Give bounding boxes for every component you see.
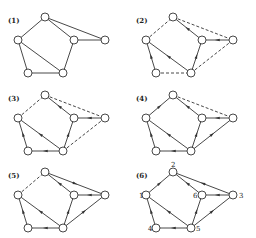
node-2 <box>169 91 177 99</box>
node-2 <box>169 13 177 21</box>
node-5 <box>59 147 67 155</box>
node-1 <box>14 191 22 199</box>
arrowhead-icon <box>150 54 153 59</box>
panel-3: (3) <box>8 91 109 155</box>
edge-1-4 <box>18 40 28 73</box>
panel-label: (2) <box>136 16 148 25</box>
node-3 <box>229 114 237 122</box>
arrowhead-icon <box>87 194 92 197</box>
node-label-2: 2 <box>171 161 175 169</box>
node-5 <box>187 147 195 155</box>
edge-1-2 <box>18 95 45 118</box>
node-4 <box>24 147 32 155</box>
node-label-3: 3 <box>239 192 243 200</box>
node-2 <box>41 91 49 99</box>
arrowhead-icon <box>43 150 48 153</box>
edge-5-3 <box>191 40 233 73</box>
arrowhead-icon <box>171 227 176 230</box>
node-2 <box>41 13 49 21</box>
node-6 <box>198 191 206 199</box>
edge-1-2 <box>18 172 45 195</box>
arrowhead-icon <box>150 132 153 137</box>
node-3 <box>101 36 109 44</box>
node-1 <box>14 36 22 44</box>
panel-label: (3) <box>8 94 20 103</box>
arrowhead-icon <box>67 132 70 137</box>
arrowhead-icon <box>72 181 77 184</box>
node-3 <box>101 114 109 122</box>
node-6 <box>198 36 206 44</box>
node-3 <box>101 191 109 199</box>
panel-6: (6)123456 <box>136 161 243 233</box>
arrowhead-icon <box>22 132 25 137</box>
arrowhead-icon <box>22 209 25 214</box>
node-label-4: 4 <box>148 225 153 233</box>
node-5 <box>59 69 67 77</box>
node-2 <box>41 168 49 176</box>
node-5 <box>187 224 195 232</box>
arrowhead-icon <box>67 209 70 214</box>
edge-5-3 <box>63 118 105 151</box>
panel-label: (5) <box>8 171 20 180</box>
edge-5-6 <box>63 40 74 73</box>
edge-1-5 <box>18 40 63 73</box>
node-3 <box>229 191 237 199</box>
arrowhead-icon <box>195 209 198 214</box>
node-6 <box>70 191 78 199</box>
edge-1-2 <box>18 17 45 40</box>
node-4 <box>152 69 160 77</box>
node-3 <box>229 36 237 44</box>
node-5 <box>59 224 67 232</box>
node-6 <box>70 114 78 122</box>
arrowhead-icon <box>43 227 48 230</box>
node-1 <box>142 114 150 122</box>
node-4 <box>152 224 160 232</box>
panel-label: (6) <box>136 171 148 180</box>
arrowhead-icon <box>215 39 220 42</box>
node-1 <box>14 114 22 122</box>
graph-orientation-figure: (1)(2)(3)(4)(5)(6)123456 <box>0 0 256 238</box>
node-2 <box>169 168 177 176</box>
node-label-1: 1 <box>139 192 143 200</box>
edge-2-6 <box>45 17 74 40</box>
node-4 <box>24 69 32 77</box>
panel-label: (4) <box>136 94 148 103</box>
arrowhead-icon <box>195 132 198 137</box>
node-5 <box>187 69 195 77</box>
panel-4: (4) <box>136 91 237 155</box>
arrowhead-icon <box>87 117 92 120</box>
panel-1: (1) <box>8 13 109 77</box>
node-4 <box>152 147 160 155</box>
arrowhead-icon <box>150 209 153 214</box>
panel-5: (5) <box>8 168 109 232</box>
node-label-6: 6 <box>193 192 198 200</box>
node-1 <box>142 36 150 44</box>
arrowhead-icon <box>171 150 176 153</box>
arrowhead-icon <box>201 183 206 186</box>
edge-1-2 <box>146 17 173 40</box>
arrowhead-icon <box>215 194 220 197</box>
node-6 <box>70 36 78 44</box>
node-label-5: 5 <box>196 225 200 233</box>
arrowhead-icon <box>215 117 220 120</box>
node-4 <box>24 224 32 232</box>
panel-label: (1) <box>8 16 20 25</box>
node-6 <box>198 114 206 122</box>
arrowhead-icon <box>195 54 198 59</box>
panel-2: (2) <box>136 13 237 77</box>
